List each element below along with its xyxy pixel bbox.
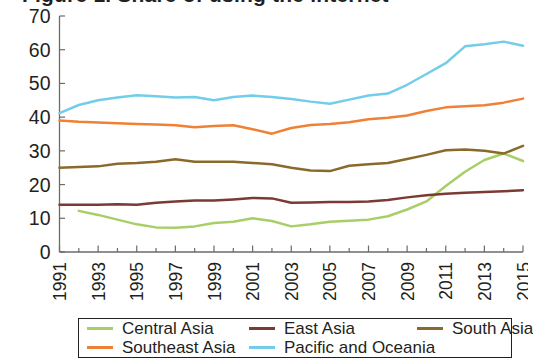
x-tick-label: 2007 [359,262,379,300]
legend-label: East Asia [284,319,355,338]
chart-legend: Central AsiaEast AsiaSouth Asia Southeas… [78,318,512,358]
x-tick-label: 2001 [243,262,263,300]
legend-label: South Asia [452,319,533,338]
x-tick-label: 1995 [127,262,147,300]
x-tick-label: 1993 [89,262,109,300]
legend-label: Pacific and Oceania [284,338,435,357]
legend-label: Southeast Asia [122,338,235,357]
y-tick-label: 70 [29,5,51,27]
legend-label: Central Asia [122,319,214,338]
x-tick-labels: 1991199319951997199920012003200520072009… [50,262,528,300]
line-chart: 0102030405060701991199319951997199920012… [0,0,528,300]
y-tick-label: 30 [29,140,51,162]
legend-swatch-icon [87,346,113,349]
legend-item[interactable]: Pacific and Oceania [249,338,417,357]
x-tick-label: 1991 [50,262,70,300]
legend-item[interactable]: South Asia [417,319,527,338]
y-tick-label: 60 [29,39,51,61]
legend-item[interactable]: East Asia [249,319,417,338]
series-line-southeast-asia [60,99,524,134]
legend-row: Central AsiaEast AsiaSouth Asia [79,319,511,338]
x-tick-label: 2009 [398,262,418,300]
x-tick-label: 1997 [166,262,186,300]
x-tick-label: 2005 [320,262,340,300]
legend-item[interactable]: Southeast Asia [87,338,249,357]
x-tick-label: 1999 [205,262,225,300]
y-tick-label: 50 [29,72,51,94]
x-tick-label: 2015 [514,262,529,300]
series-line-central-asia [79,154,523,228]
legend-swatch-icon [417,327,443,330]
legend-item[interactable]: Central Asia [87,319,249,338]
series-line-east-asia [60,190,524,205]
x-tick-label: 2013 [475,262,495,300]
series-line-pacific-and-oceania [60,42,524,113]
y-tick-label: 0 [40,241,51,263]
series-line-south-asia [60,146,524,171]
y-tick-label: 10 [29,207,51,229]
legend-swatch-icon [249,327,275,330]
legend-row: Southeast AsiaPacific and Oceania [79,338,511,357]
x-tick-label: 2003 [282,262,302,300]
legend-swatch-icon [249,346,275,349]
legend-swatch-icon [87,327,113,330]
plot-area: 0102030405060701991199319951997199920012… [0,0,528,300]
y-tick-label: 40 [29,106,51,128]
y-tick-label: 20 [29,174,51,196]
x-tick-label: 2011 [436,262,456,300]
